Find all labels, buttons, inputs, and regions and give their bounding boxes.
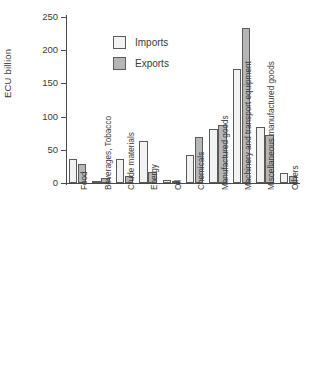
bar-imports [233, 69, 242, 183]
bar-chart-figure: ECU billion 050100150200250 Imports Expo… [0, 0, 310, 374]
legend-item-exports: Exports [113, 53, 169, 74]
bar-imports [139, 141, 148, 183]
x-axis-label-8: Miscellaneous manufactured goods [268, 61, 276, 190]
bar-imports [186, 155, 195, 183]
bar-imports [256, 127, 265, 183]
bar-imports [116, 159, 125, 183]
plot-area [66, 17, 300, 183]
legend-item-imports: Imports [113, 32, 169, 53]
x-axis-label-7: Machinery and transport equipment [245, 61, 253, 190]
legend-swatch-imports-icon [113, 36, 126, 49]
y-axis-label: ECU billion [2, 8, 18, 98]
bar-imports [209, 129, 218, 183]
y-tick-label: 150 [18, 78, 58, 88]
x-axis-label-6: Manufactured goods [222, 115, 230, 190]
y-tick-label: 50 [18, 145, 58, 155]
y-tick-label: 250 [18, 12, 58, 22]
y-tick-label: 0 [18, 178, 58, 188]
bar-imports [92, 181, 101, 183]
y-tick-label: 100 [18, 112, 58, 122]
legend-label-imports: Imports [135, 37, 168, 48]
x-axis-label-2: Crude materials [128, 132, 136, 190]
x-axis-label-3: Energy [151, 164, 159, 190]
x-axis-label-4: Oil [175, 180, 183, 190]
legend-label-exports: Exports [135, 58, 169, 69]
x-axis-label-0: Food [81, 171, 89, 190]
bar-imports [69, 159, 78, 183]
x-axis-label-1: Beverages, Tobacco [105, 116, 113, 190]
x-axis-label-9: Others [292, 165, 300, 190]
bar-imports [280, 173, 289, 183]
x-axis-label-5: Chemicals [198, 152, 206, 190]
bar-imports [163, 180, 172, 183]
y-tick-mark [61, 183, 66, 184]
y-tick-label: 200 [18, 45, 58, 55]
legend-swatch-exports-icon [113, 57, 126, 70]
chart-legend: Imports Exports [113, 32, 169, 74]
